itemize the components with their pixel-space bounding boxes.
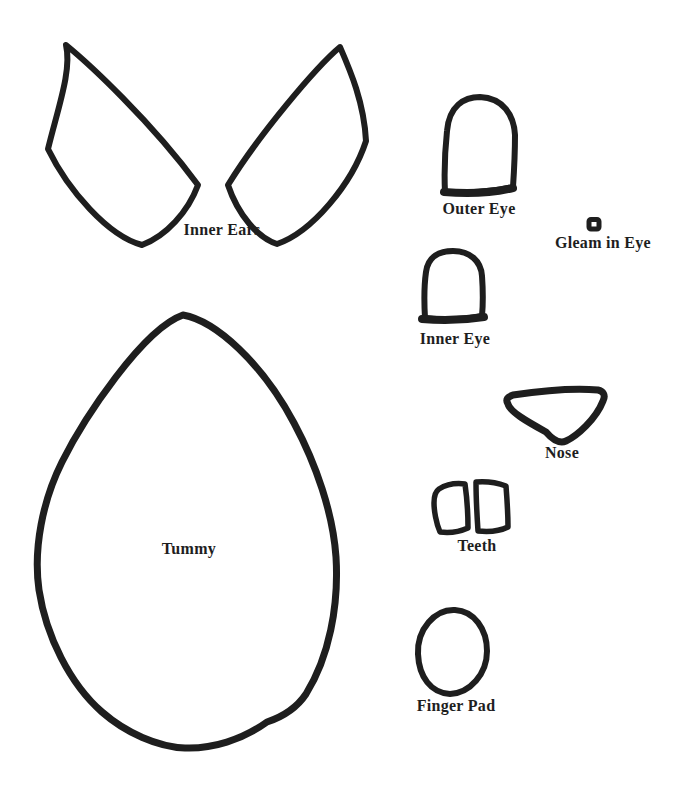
outer-eye-shape: [445, 97, 515, 192]
gleam-in-eye-shape: [589, 220, 599, 230]
finger-pad-label: Finger Pad: [417, 697, 496, 714]
finger-pad-shape: [418, 610, 487, 694]
inner-ears-label: Inner Ears: [184, 221, 261, 238]
pattern-page: Inner Ears Outer Eye Gleam in Eye Inner …: [0, 0, 691, 789]
outer-eye-baseline: [444, 188, 513, 193]
tummy-shape: [37, 315, 336, 748]
pattern-shapes-canvas: [0, 0, 691, 789]
teeth-label: Teeth: [457, 537, 496, 554]
inner-ear-left-shape: [48, 45, 198, 245]
tummy-label: Tummy: [162, 540, 216, 557]
outer-eye-label: Outer Eye: [442, 200, 515, 217]
nose-shape: [507, 389, 604, 442]
inner-eye-baseline: [422, 317, 484, 320]
gleam-in-eye-label: Gleam in Eye: [555, 234, 651, 251]
nose-label: Nose: [545, 444, 579, 461]
tooth-right-shape: [476, 482, 508, 532]
tooth-left-shape: [434, 484, 468, 533]
inner-eye-label: Inner Eye: [420, 330, 490, 347]
inner-eye-shape: [424, 251, 482, 319]
inner-ear-right-shape: [228, 47, 366, 244]
